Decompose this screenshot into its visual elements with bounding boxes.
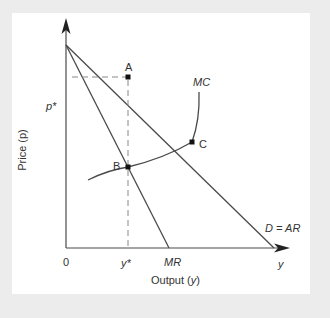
demand-curve (66, 45, 274, 248)
point-a-marker (126, 75, 131, 80)
x-axis-end-label: y (278, 259, 284, 270)
point-c-label: C (199, 139, 207, 150)
y-axis-title: Price (p) (16, 129, 28, 171)
p-star-label: p* (46, 101, 56, 112)
point-a-label: A (125, 62, 132, 73)
x-axis-title-prefix: Output ( (151, 274, 191, 286)
mc-curve (88, 92, 199, 180)
monopoly-diagram (0, 0, 330, 318)
mr-curve (66, 45, 169, 248)
demand-label: D = AR (265, 223, 300, 234)
point-b-marker (126, 165, 131, 170)
x-axis-title-suffix: ) (196, 274, 200, 286)
mr-label: MR (164, 257, 181, 268)
mc-label: MC (193, 77, 210, 88)
x-axis-title: Output (y) (151, 275, 200, 286)
origin-label: 0 (63, 257, 69, 268)
point-c-marker (190, 140, 195, 145)
y-star-label: y* (121, 258, 131, 269)
point-b-label: B (113, 161, 120, 172)
